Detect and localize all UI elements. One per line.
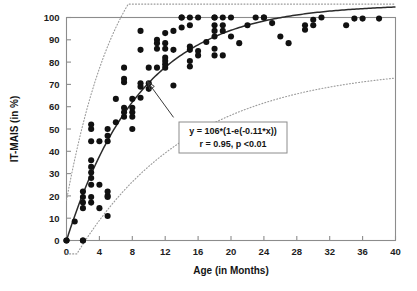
data-point	[269, 20, 275, 26]
y-tick-label: 90	[49, 34, 60, 45]
x-tick-label: 40	[390, 246, 401, 257]
x-axis-title: Age (in Months)	[193, 265, 269, 276]
x-tick-label: 8	[130, 246, 135, 257]
data-point	[179, 24, 185, 30]
y-tick-label: 10	[49, 213, 60, 224]
data-point	[105, 194, 111, 200]
data-point	[96, 138, 102, 144]
data-point	[195, 14, 201, 20]
equation-line-1: y = 106*(1-e(-0.11*x))	[189, 126, 276, 136]
chart-figure: 0481216202428323640 01020304050607080901…	[0, 0, 417, 291]
y-tick-label: 30	[49, 168, 60, 179]
x-tick-label: 24	[259, 246, 270, 257]
data-point	[187, 64, 193, 70]
data-point	[88, 157, 94, 163]
x-tick-label: 12	[160, 246, 171, 257]
data-point	[212, 46, 218, 52]
y-tick-label: 20	[49, 191, 60, 202]
data-point	[137, 80, 143, 86]
data-point	[195, 48, 201, 54]
data-point	[105, 133, 111, 139]
y-tick-label: 40	[49, 146, 60, 157]
data-point	[302, 27, 308, 33]
data-point	[154, 46, 160, 52]
data-point	[88, 175, 94, 181]
data-point	[88, 169, 94, 175]
scatter-plot: 0481216202428323640 01020304050607080901…	[0, 0, 417, 291]
data-point	[228, 14, 234, 20]
data-point	[137, 95, 143, 101]
data-point	[360, 16, 366, 22]
data-point	[187, 58, 193, 64]
data-point	[88, 164, 94, 170]
data-point	[154, 37, 160, 43]
data-point	[88, 200, 94, 206]
y-tick-label: 80	[49, 57, 60, 68]
y-tick-label: 50	[49, 124, 60, 135]
data-point	[220, 22, 226, 28]
data-point	[212, 28, 218, 34]
data-point	[187, 43, 193, 49]
data-point	[80, 237, 86, 243]
data-point	[63, 237, 69, 243]
data-point	[121, 76, 127, 82]
data-point	[220, 28, 226, 34]
data-point	[162, 40, 168, 46]
data-point	[162, 46, 168, 52]
data-point	[212, 33, 218, 39]
data-point	[318, 14, 324, 20]
data-point	[154, 65, 160, 71]
data-point	[212, 14, 218, 20]
data-point	[146, 65, 152, 71]
data-point	[170, 82, 176, 88]
data-point	[212, 22, 218, 28]
data-point	[187, 22, 193, 28]
x-tick-label: 32	[324, 246, 335, 257]
data-point	[220, 52, 226, 58]
data-point	[105, 188, 111, 194]
data-point	[253, 14, 259, 20]
data-point	[80, 205, 86, 211]
data-point	[277, 33, 283, 39]
data-point	[80, 188, 86, 194]
data-point	[187, 14, 193, 20]
data-point	[261, 14, 267, 20]
equation-line-2: r = 0.95, p <0.01	[199, 139, 266, 149]
data-point	[162, 30, 168, 36]
x-tick-label: 0	[64, 246, 69, 257]
data-point	[129, 105, 135, 111]
y-tick-label: 0	[54, 235, 59, 246]
data-point	[105, 126, 111, 132]
data-point	[121, 65, 127, 71]
data-point	[80, 200, 86, 206]
data-point	[220, 14, 226, 20]
annotation-box: y = 106*(1-e(-0.11*x)) r = 0.95, p <0.01	[179, 122, 287, 153]
data-point	[137, 28, 143, 34]
data-point	[170, 28, 176, 34]
data-point	[121, 105, 127, 111]
data-point	[179, 14, 185, 20]
data-point	[113, 119, 119, 125]
data-point	[310, 22, 316, 28]
data-point	[203, 39, 209, 45]
x-tick-label: 4	[97, 246, 103, 257]
data-point	[80, 194, 86, 200]
data-point	[212, 52, 218, 58]
data-point	[244, 22, 250, 28]
data-point	[105, 138, 111, 144]
x-tick-label: 36	[357, 246, 368, 257]
y-tick-label: 60	[49, 101, 60, 112]
data-point	[72, 218, 78, 224]
data-point	[96, 205, 102, 211]
data-point	[88, 121, 94, 127]
data-point	[286, 40, 292, 46]
y-tick-label: 70	[49, 79, 60, 90]
data-point	[88, 138, 94, 144]
y-axis-title: IT-MAIS (in %)	[9, 96, 20, 163]
data-point	[170, 47, 176, 53]
data-point	[105, 213, 111, 219]
data-point	[129, 126, 135, 132]
data-point	[228, 33, 234, 39]
data-point	[113, 96, 119, 102]
data-point	[129, 96, 135, 102]
